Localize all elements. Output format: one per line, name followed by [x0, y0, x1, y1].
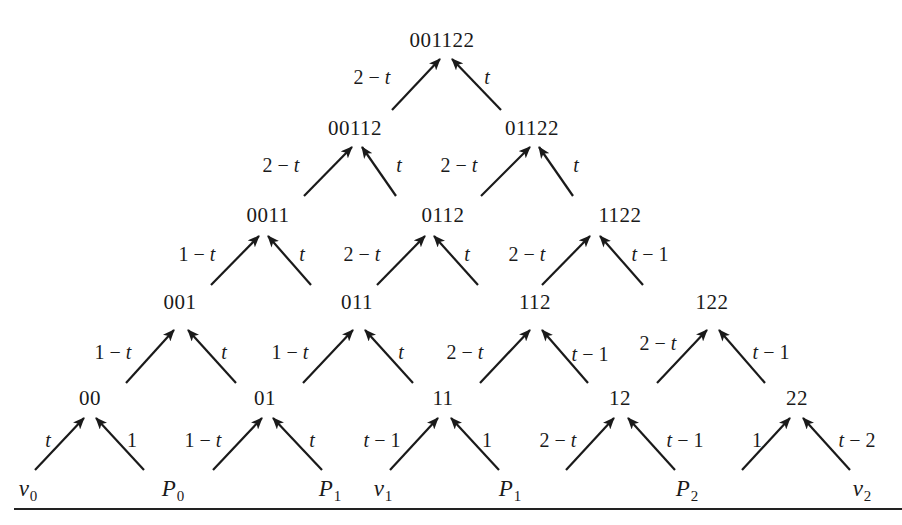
leaf-v2: v2 [853, 476, 872, 505]
arrow-0112-to-00112 [362, 147, 396, 196]
leaf-symbol: v [19, 476, 29, 501]
leaf-P1a: P1 [319, 476, 342, 505]
leaf-subscript: 2 [691, 488, 699, 504]
edge-label: 1 [482, 429, 492, 452]
pyramid-diagram: 0011220011201122001101121122001011112122… [0, 0, 902, 525]
node-0011: 0011 [246, 203, 289, 228]
arrow-11-to-112 [480, 330, 530, 383]
leaf-subscript: 0 [177, 488, 185, 504]
edge-label: t [398, 341, 404, 364]
arrow-11-to-011 [365, 330, 413, 383]
node-011: 011 [341, 290, 373, 315]
leaf-subscript: 1 [334, 488, 342, 504]
leaf-symbol: P [319, 476, 333, 501]
edge-label: 2 − t [344, 243, 381, 266]
edge-label: 2 − t [509, 243, 546, 266]
arrow-112-to-0112 [434, 236, 478, 285]
edge-label: 1 − t [185, 429, 222, 452]
edge-label: t [309, 429, 315, 452]
edge-label: 2 − t [263, 154, 300, 177]
arrow-01122-to-001122 [452, 59, 501, 110]
edge-label: t − 1 [364, 429, 401, 452]
leaf-symbol: P [162, 476, 176, 501]
edge-label: t [464, 243, 470, 266]
edge-label: 1 − t [179, 243, 216, 266]
edge-label: t [221, 341, 227, 364]
node-001: 001 [164, 290, 197, 315]
node-12: 12 [609, 386, 631, 411]
edge-label: t − 1 [572, 343, 609, 366]
arrow-011-to-0112 [377, 236, 425, 285]
edge-label: t − 2 [839, 429, 876, 452]
node-00112: 00112 [328, 116, 382, 141]
edge-label: 1 [127, 429, 137, 452]
arrow-00-to-001 [126, 330, 174, 383]
node-01: 01 [254, 386, 276, 411]
node-122: 122 [696, 290, 729, 315]
edge-label: 1 − t [95, 341, 132, 364]
edge-label: 1 [752, 429, 762, 452]
node-00: 00 [79, 386, 101, 411]
edge-label: 2 − t [447, 341, 484, 364]
node-112: 112 [519, 290, 551, 315]
node-01122: 01122 [505, 116, 559, 141]
arrow-01-to-001 [188, 330, 236, 383]
arrow-P2-to-22 [742, 418, 790, 470]
edge-label: t [484, 66, 490, 89]
leaf-v0: v0 [19, 476, 38, 505]
leaf-symbol: P [499, 476, 513, 501]
edge-label: 1 − t [272, 341, 309, 364]
arrow-00112-to-001122 [392, 59, 440, 110]
node-22: 22 [786, 386, 808, 411]
edge-label: t − 1 [667, 429, 704, 452]
edge-label: t [573, 154, 579, 177]
arrow-0011-to-00112 [304, 147, 352, 196]
leaf-symbol: v [374, 476, 384, 501]
edge-label: 2 − t [441, 154, 478, 177]
edge-label: t [45, 429, 51, 452]
edge-label: t − 1 [632, 243, 669, 266]
leaf-subscript: 2 [864, 488, 872, 504]
edge-label: t − 1 [753, 341, 790, 364]
node-11: 11 [432, 386, 453, 411]
leaf-symbol: v [853, 476, 863, 501]
arrow-001-to-0011 [211, 236, 259, 285]
node-0112: 0112 [421, 203, 464, 228]
edge-label: t [396, 154, 402, 177]
leaf-P1b: P1 [499, 476, 522, 505]
leaf-symbol: P [676, 476, 690, 501]
leaf-subscript: 0 [30, 488, 38, 504]
leaf-subscript: 1 [385, 488, 393, 504]
horizontal-rule [14, 508, 902, 510]
edge-label: t [299, 243, 305, 266]
arrow-01-to-011 [303, 330, 353, 383]
edge-label: 2 − t [354, 66, 391, 89]
arrow-112-to-1122 [542, 236, 590, 285]
leaf-subscript: 1 [514, 488, 522, 504]
node-001122: 001122 [409, 28, 474, 53]
node-1122: 1122 [598, 203, 641, 228]
edge-label: 2 − t [640, 332, 677, 355]
arrow-1122-to-01122 [539, 147, 573, 196]
leaf-P0: P0 [162, 476, 185, 505]
arrow-0112-to-01122 [481, 147, 530, 196]
leaf-P2: P2 [676, 476, 699, 505]
arrow-v0-to-00 [35, 418, 84, 470]
edge-label: 2 − t [540, 429, 577, 452]
leaf-v1: v1 [374, 476, 393, 505]
